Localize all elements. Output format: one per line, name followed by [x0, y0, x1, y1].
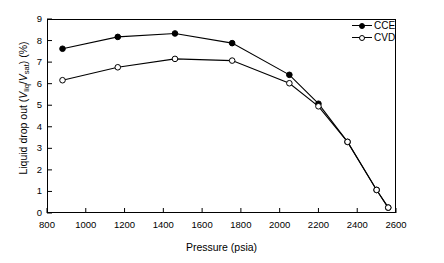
y-axis-title-suffix: ) (%) [17, 41, 29, 64]
data-point-cvd [229, 58, 235, 64]
data-point-cvd [115, 64, 121, 70]
data-point-cvd [345, 139, 351, 145]
series-line-cvd [63, 59, 389, 208]
data-point-cvd [60, 77, 66, 83]
open-circle-icon [352, 32, 372, 43]
data-point-cce [287, 72, 293, 78]
y-axis-title-v1: V [17, 92, 29, 99]
y-axis-title-sub2: sat [22, 64, 31, 74]
x-tick-label: 1400 [143, 220, 183, 230]
y-axis-title-sub1: liq [22, 84, 31, 92]
filled-circle-icon [352, 20, 372, 31]
legend-label: CVD [372, 32, 395, 43]
data-point-cvd [385, 205, 391, 211]
x-tick-label: 1800 [221, 220, 261, 230]
x-tick-label: 1600 [182, 220, 222, 230]
data-point-cvd [172, 56, 178, 62]
chart-legend: CCECVD [352, 20, 394, 44]
data-point-cvd [316, 104, 322, 110]
series-line-cce [63, 33, 389, 207]
y-axis-title-slash: / [17, 81, 29, 84]
y-axis-title-prefix: Liquid drop out ( [17, 99, 29, 175]
x-tick-label: 2000 [260, 220, 300, 230]
x-tick-label: 2200 [298, 220, 338, 230]
x-tick-label: 2600 [376, 220, 416, 230]
legend-label: CCE [372, 20, 395, 31]
y-axis-title: Liquid drop out (Vliq/Vsat) (%) [17, 0, 31, 218]
legend-item-cvd: CVD [352, 32, 394, 43]
y-axis-title-v2: V [17, 74, 29, 81]
x-tick-label: 1000 [66, 220, 106, 230]
y-axis-title-wrap: Liquid drop out (Vliq/Vsat) (%) [17, 0, 33, 218]
data-point-cce [60, 46, 66, 52]
chart-figure: 0123456789 80010001200140016001800200022… [0, 0, 444, 263]
x-axis-title: Pressure (psia) [47, 241, 396, 253]
x-tick-label: 1200 [105, 220, 145, 230]
legend-item-cce: CCE [352, 20, 394, 31]
data-point-cvd [287, 80, 293, 86]
data-point-cce [172, 31, 178, 37]
data-point-cce [115, 34, 121, 40]
x-tick-label: 2400 [337, 220, 377, 230]
data-point-cvd [374, 187, 380, 193]
data-point-cce [229, 40, 235, 46]
x-tick-label: 800 [27, 220, 67, 230]
